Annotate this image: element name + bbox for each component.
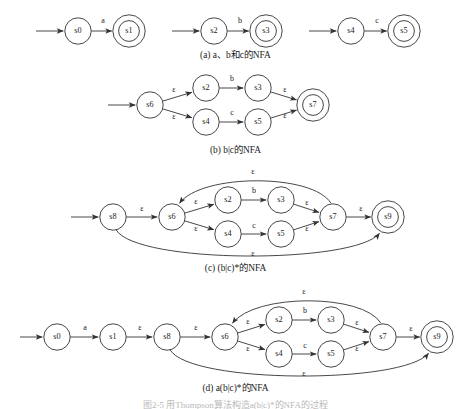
state-label-b-s5: s5: [254, 117, 261, 126]
panel-caption-b: (b) b|c的NFA: [0, 142, 471, 156]
state-d-s0: s0: [44, 324, 70, 350]
state-label-c-s5: s5: [277, 229, 284, 238]
edge-label-c-s2-s3: b: [252, 186, 256, 195]
state-label-a-s0: s0: [74, 26, 81, 35]
state-d-s2: s2: [266, 307, 292, 333]
nfa-figure: s0s1s2s3s4s5s6s2s3s4s5s7s8s6s2s3s4s5s7s9…: [0, 0, 471, 409]
state-label-c-s6: s6: [168, 212, 175, 221]
edge-label-c-s3-s7: ε: [305, 198, 309, 207]
edge-label-c-s7-s6: ε: [251, 167, 255, 176]
state-d-s1: s1: [100, 324, 126, 350]
edge-label-a-s0-s1: a: [101, 16, 105, 25]
edge-label-d-s8-s6: ε: [194, 323, 198, 332]
edge-label-b-s3-s7: ε: [283, 85, 287, 94]
state-label-d-s8: s8: [163, 332, 170, 341]
panel-caption-d: (d) a(b|c)*的NFA: [0, 380, 471, 394]
edge-b-s6-to-s2: [163, 92, 192, 101]
state-label-b-s7: s7: [309, 100, 316, 109]
edge-label-d-s6-s2: ε: [246, 317, 250, 326]
state-label-c-s9: s9: [384, 212, 391, 221]
state-label-d-s4: s4: [275, 349, 282, 358]
states-layer: s0s1s2s3s4s5s6s2s3s4s5s7s8s6s2s3s4s5s7s9…: [44, 15, 453, 367]
edge-label-d-s3-s7: ε: [355, 318, 359, 327]
state-label-d-s0: s0: [53, 332, 60, 341]
edge-label-d-s7-s6: ε: [302, 287, 306, 296]
state-label-a-s2: s2: [210, 26, 217, 35]
state-c-s3: s3: [268, 187, 294, 213]
state-c-s2: s2: [215, 187, 241, 213]
state-label-a-s5: s5: [400, 26, 407, 35]
state-label-c-s2: s2: [224, 195, 231, 204]
state-label-d-s1: s1: [109, 332, 116, 341]
edge-label-b-s5-s7: ε: [283, 111, 287, 120]
edge-label-a-s2-s3: b: [238, 16, 242, 25]
state-a-s2: s2: [201, 18, 227, 44]
state-label-d-s6: s6: [221, 332, 228, 341]
edge-c-s6-to-s2: [185, 204, 214, 213]
state-label-a-s4: s4: [347, 26, 354, 35]
state-label-d-s3: s3: [327, 315, 334, 324]
state-c-s7: s7: [320, 204, 346, 230]
state-label-c-s4: s4: [224, 229, 231, 238]
edge-label-d-s7-s9: ε: [409, 324, 413, 333]
state-b-s2: s2: [193, 75, 219, 101]
edge-label-c-s6-s2: ε: [194, 197, 198, 206]
edge-label-d-s4-s5: c: [303, 341, 307, 350]
state-label-b-s6: s6: [146, 100, 153, 109]
edge-label-d-s1-s8: ε: [138, 323, 142, 332]
state-d-s7: s7: [370, 324, 396, 350]
state-label-b-s3: s3: [254, 83, 261, 92]
state-c-s5: s5: [268, 221, 294, 247]
edge-b-s6-to-s4: [163, 109, 192, 118]
edge-label-b-s4-s5: c: [230, 108, 234, 117]
state-d-s9: s9: [421, 321, 453, 353]
edge-label-b-s6-s2: ε: [172, 85, 176, 94]
state-label-c-s8: s8: [109, 212, 116, 221]
edge-d-s6-to-s4: [238, 341, 265, 350]
edge-d-s6-to-s2: [238, 324, 265, 333]
state-a-s5: s5: [388, 15, 420, 47]
state-d-s6: s6: [212, 324, 238, 350]
state-c-s6: s6: [159, 204, 185, 230]
figure-footer-text: 图2-5 用Thompson算法构造a(b|c)*的NFA的过程: [0, 398, 471, 409]
state-label-a-s1: s1: [125, 26, 132, 35]
state-a-s4: s4: [338, 18, 364, 44]
edge-label-c-s8-s9: ε: [251, 249, 255, 258]
panel-caption-c: (c) (b|c)*的NFA: [0, 260, 471, 274]
state-label-a-s3: s3: [262, 26, 269, 35]
state-label-c-s3: s3: [277, 195, 284, 204]
edge-labels-layer: abcεεbcεεεεεbcεεεεεaεεεεbcεεεεε: [83, 16, 413, 378]
state-label-d-s9: s9: [433, 332, 440, 341]
state-b-s5: s5: [245, 109, 271, 135]
nfa-diagram-canvas: s0s1s2s3s4s5s6s2s3s4s5s7s8s6s2s3s4s5s7s9…: [0, 0, 471, 409]
edge-label-c-s7-s9: ε: [359, 204, 363, 213]
state-b-s4: s4: [193, 109, 219, 135]
state-a-s1: s1: [113, 15, 145, 47]
state-label-b-s4: s4: [202, 117, 209, 126]
state-d-s8: s8: [154, 324, 180, 350]
edge-label-d-s8-s9: ε: [302, 369, 306, 378]
edge-label-b-s2-s3: b: [230, 74, 234, 83]
edge-c-s6-to-s4: [185, 221, 214, 230]
state-b-s6: s6: [137, 92, 163, 118]
edge-label-a-s4-s5: c: [375, 16, 379, 25]
state-label-b-s2: s2: [202, 83, 209, 92]
state-d-s3: s3: [318, 307, 344, 333]
edge-label-c-s8-s6: ε: [140, 204, 144, 213]
state-a-s3: s3: [250, 15, 282, 47]
edge-label-c-s4-s5: c: [252, 221, 256, 230]
state-d-s5: s5: [318, 341, 344, 367]
state-label-d-s2: s2: [275, 315, 282, 324]
state-c-s8: s8: [100, 204, 126, 230]
state-c-s4: s4: [215, 221, 241, 247]
state-d-s4: s4: [266, 341, 292, 367]
state-label-d-s5: s5: [327, 349, 334, 358]
edge-label-d-s0-s1: a: [83, 323, 87, 332]
edge-label-d-s2-s3: b: [303, 306, 307, 315]
state-b-s3: s3: [245, 75, 271, 101]
state-a-s0: s0: [65, 18, 91, 44]
state-label-d-s7: s7: [379, 332, 386, 341]
state-c-s9: s9: [372, 201, 404, 233]
panel-caption-a: (a) a、b和c的NFA: [0, 47, 471, 61]
state-b-s7: s7: [297, 89, 329, 121]
